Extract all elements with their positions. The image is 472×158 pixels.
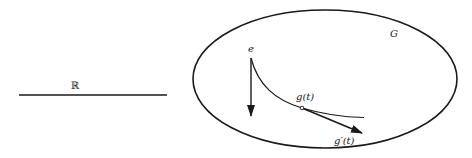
curve-point-label: g(t) (296, 92, 314, 102)
group-ellipse (193, 10, 457, 148)
diagram-canvas (0, 0, 472, 158)
curve-point-marker (300, 106, 304, 110)
identity-label: e (248, 44, 254, 54)
real-line-label: ℝ (71, 81, 79, 91)
group-label: G (390, 29, 398, 39)
tangent-vector-label: g′(t) (334, 136, 355, 146)
tangent-arrow (302, 108, 362, 133)
curve-g (251, 58, 364, 118)
